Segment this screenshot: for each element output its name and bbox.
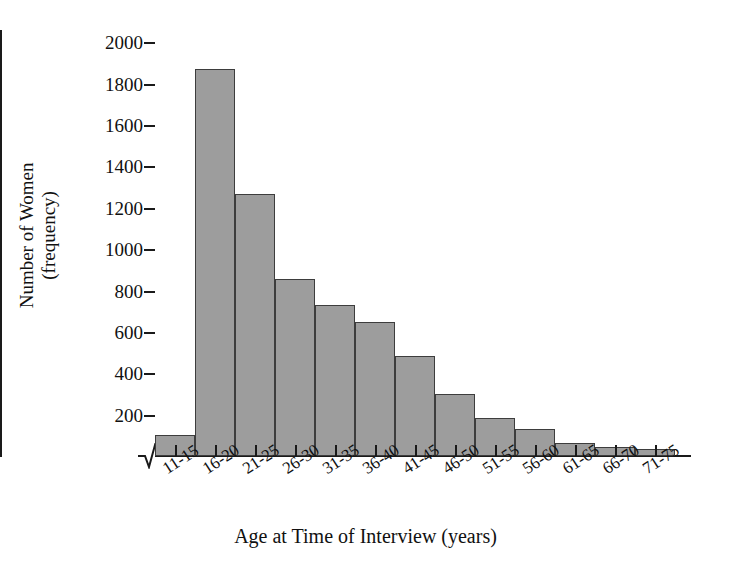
- y-axis-title-line2: (frequency): [38, 162, 60, 308]
- histogram-bar: [315, 305, 355, 456]
- y-axis-tick-label: 600: [81, 322, 143, 341]
- y-axis-tick-label: 1800: [81, 74, 143, 93]
- y-axis-tick-label: 1000: [81, 240, 143, 259]
- y-axis-title: Number of Women (frequency): [8, 0, 68, 470]
- y-axis-tick: [144, 249, 155, 251]
- histogram-bar: [275, 279, 315, 456]
- y-axis-tick: [144, 166, 155, 168]
- y-axis-tick-label: 2000: [81, 33, 143, 52]
- y-axis-tick-labels: 200400600800100012001400160018002000: [81, 0, 143, 470]
- x-axis-title: Age at Time of Interview (years): [0, 525, 731, 548]
- y-axis-tick-label: 400: [81, 364, 143, 383]
- y-axis-tick: [144, 125, 155, 127]
- histogram-bar: [355, 322, 395, 456]
- y-axis-tick: [144, 291, 155, 293]
- histogram-bar: [235, 194, 275, 456]
- histogram-figure: Number of Women (frequency) 200400600800…: [0, 0, 731, 565]
- y-axis-tick-label: 1200: [81, 198, 143, 217]
- y-axis-line: [0, 30, 2, 457]
- y-axis-title-line1: Number of Women: [16, 162, 38, 308]
- y-axis-tick: [144, 415, 155, 417]
- y-axis-tick-label: 1600: [81, 116, 143, 135]
- y-axis-tick: [144, 84, 155, 86]
- y-axis-tick: [144, 332, 155, 334]
- plot-area: [155, 30, 690, 456]
- y-axis-tick: [144, 208, 155, 210]
- histogram-bar: [195, 69, 235, 456]
- y-axis-tick-label: 1400: [81, 157, 143, 176]
- y-axis-tick-label: 200: [81, 405, 143, 424]
- y-axis-tick: [144, 373, 155, 375]
- y-axis-tick-label: 800: [81, 281, 143, 300]
- y-axis-tick: [144, 42, 155, 44]
